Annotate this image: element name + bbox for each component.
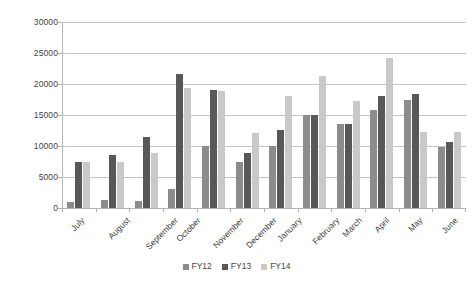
bar-fy13 xyxy=(345,124,352,208)
x-label-cell: August xyxy=(96,213,130,258)
x-label-cell: September xyxy=(129,213,163,258)
y-tick-label: 25000 xyxy=(6,49,58,58)
bar-fy14 xyxy=(319,76,326,208)
x-tick-label: May xyxy=(406,216,424,234)
legend-item-fy14[interactable]: FY14 xyxy=(261,262,290,271)
bar-fy12 xyxy=(370,110,377,208)
bar-fy12 xyxy=(337,124,344,208)
x-label-cell: March xyxy=(331,213,365,258)
bar-group xyxy=(432,22,466,208)
x-label-cell: February xyxy=(298,213,332,258)
bar-fy14 xyxy=(285,96,292,208)
bar-fy14 xyxy=(454,132,461,208)
x-label-cell: May xyxy=(399,213,433,258)
bar-fy14 xyxy=(353,101,360,208)
legend-swatch-icon xyxy=(222,264,228,270)
bar-fy12 xyxy=(303,115,310,208)
legend-swatch-icon xyxy=(183,264,189,270)
y-tick-label: 20000 xyxy=(6,80,58,89)
y-axis: 050001000015000200002500030000 xyxy=(0,0,58,285)
bar-group xyxy=(365,22,399,208)
bar-fy13 xyxy=(210,90,217,208)
bar-group xyxy=(399,22,433,208)
x-label-cell: January xyxy=(264,213,298,258)
bar-fy14 xyxy=(184,88,191,208)
x-label-cell: November xyxy=(197,213,231,258)
bar-fy13 xyxy=(412,94,419,208)
legend-label: FY13 xyxy=(231,262,251,271)
bar-fy13 xyxy=(446,142,453,208)
bar-fy14 xyxy=(117,162,124,208)
bar-group xyxy=(62,22,96,208)
bar-fy13 xyxy=(176,74,183,208)
bar-fy12 xyxy=(236,162,243,209)
legend-label: FY12 xyxy=(192,262,212,271)
bar-group xyxy=(331,22,365,208)
bar-group xyxy=(298,22,332,208)
bar-group xyxy=(230,22,264,208)
x-label-cell: June xyxy=(432,213,466,258)
bar-fy13 xyxy=(143,137,150,208)
legend: FY12FY13FY14 xyxy=(0,262,473,271)
x-tick-label: June xyxy=(441,216,460,235)
bar-fy12 xyxy=(438,147,445,208)
bar-fy14 xyxy=(83,162,90,208)
bar-group xyxy=(197,22,231,208)
legend-item-fy12[interactable]: FY12 xyxy=(183,262,212,271)
bar-fy12 xyxy=(168,189,175,208)
bar-fy14 xyxy=(252,133,259,208)
bar-fy12 xyxy=(202,146,209,208)
bar-group xyxy=(129,22,163,208)
x-tick-label: March xyxy=(341,216,364,239)
x-label-cell: April xyxy=(365,213,399,258)
x-tick-label: April xyxy=(373,216,391,234)
bar-fy14 xyxy=(420,132,427,208)
bar-fy14 xyxy=(218,91,225,208)
x-label-cell: October xyxy=(163,213,197,258)
bar-fy12 xyxy=(135,201,142,208)
bar-fy12 xyxy=(404,100,411,209)
y-tick-label: 30000 xyxy=(6,18,58,27)
y-tick-label: 10000 xyxy=(6,142,58,151)
x-label-cell: July xyxy=(62,213,96,258)
y-tick-label: 5000 xyxy=(6,173,58,182)
bar-chart: 050001000015000200002500030000 JulyAugus… xyxy=(0,0,473,285)
bar-group xyxy=(264,22,298,208)
bar-group xyxy=(163,22,197,208)
bar-groups xyxy=(62,22,466,208)
bar-fy13 xyxy=(277,130,284,208)
bar-fy13 xyxy=(109,155,116,208)
bar-fy13 xyxy=(311,115,318,208)
x-axis-labels: JulyAugustSeptemberOctoberNovemberDecemb… xyxy=(62,213,466,258)
bar-fy12 xyxy=(101,200,108,208)
y-tick-label: 0 xyxy=(6,204,58,213)
y-tick-label: 15000 xyxy=(6,111,58,120)
x-tick-label: July xyxy=(69,216,86,233)
bar-fy12 xyxy=(269,146,276,208)
legend-swatch-icon xyxy=(261,264,267,270)
x-label-cell: December xyxy=(230,213,264,258)
bar-fy14 xyxy=(386,58,393,208)
legend-item-fy13[interactable]: FY13 xyxy=(222,262,251,271)
legend-label: FY14 xyxy=(270,262,290,271)
x-tick-label: August xyxy=(106,216,131,241)
bar-fy13 xyxy=(378,96,385,208)
bar-fy13 xyxy=(75,162,82,208)
bar-fy13 xyxy=(244,153,251,208)
bar-fy14 xyxy=(151,153,158,208)
bar-group xyxy=(96,22,130,208)
